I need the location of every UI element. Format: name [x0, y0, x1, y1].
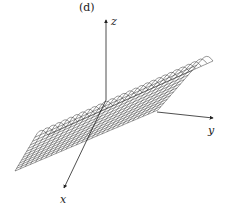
mesh-line: [20, 99, 168, 163]
wireframe-surface: [15, 56, 213, 171]
x-axis: [64, 100, 106, 188]
panel-label: (d): [79, 1, 95, 14]
mesh-line: [35, 65, 197, 137]
mesh-line: [30, 75, 188, 145]
y-axis-label: y: [207, 124, 215, 137]
mesh-line: [158, 56, 213, 110]
x-axis-label: x: [60, 193, 67, 206]
mesh-line: [25, 88, 177, 154]
mesh-line: [21, 96, 170, 161]
mesh-line: [23, 92, 174, 158]
z-axis-label: z: [110, 15, 117, 28]
mesh-line: [27, 84, 181, 152]
y-axis: [157, 112, 213, 118]
mesh-line: [33, 70, 193, 141]
surface-plot: (d) z y x: [0, 0, 226, 212]
